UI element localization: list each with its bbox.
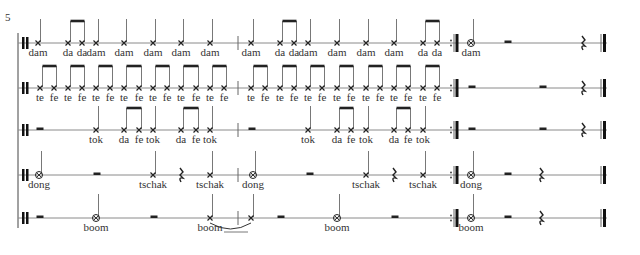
lyric-syllable: fe [433,91,442,103]
lyric-syllable: tok [301,133,316,145]
half-rest-icon [307,173,314,176]
lyric-syllable: fe [135,133,144,145]
half-rest-icon [94,173,101,176]
lyric-syllable: te [120,91,128,103]
lyric-syllable: tok [416,133,431,145]
lyric-syllable: te [64,91,72,103]
lyric-syllable: dam [299,46,318,58]
staff-te-fe-staff: tefetefetefetefetefetefetefetefetefetefe… [18,66,607,103]
staff-dong-tschak-staff: dongtschaktschakdongtschaktschakdong [18,151,607,190]
lyric-syllable: dam [201,46,220,58]
measure-number-label: 5 [5,11,11,23]
half-rest-icon [505,173,512,176]
lyric-syllable: da [332,133,343,145]
lyric-syllable: te [419,91,427,103]
lyric-syllable: fe [220,91,229,103]
lyric-syllable: dam [115,46,134,58]
lyric-syllable: tschak [196,178,225,190]
lyric-syllable: dam [29,46,48,58]
lyric-syllable: fe [376,91,385,103]
lyric-syllable: tschak [352,178,381,190]
lyric-syllable: fe [135,91,144,103]
lyric-syllable: fe [318,91,327,103]
lyric-syllable: te [177,91,185,103]
percussion-clef-icon [22,169,25,181]
lyric-syllable: dam [172,46,191,58]
lyric-syllable: te [304,91,312,103]
lyric-syllable: tschak [409,178,438,190]
repeat-dot-icon [450,172,452,174]
half-rest-icon [505,216,512,219]
staff-boom-staff: boomboomboomboom [18,194,607,233]
lyric-syllable: tok [359,133,374,145]
repeat-dot-icon [450,90,452,92]
lyric-syllable: boom [458,221,484,233]
half-rest-icon [37,128,44,131]
lyric-syllable: da [432,46,443,58]
lyric-syllable: da [63,46,74,58]
lyric-syllable: tok [89,133,104,145]
lyric-syllable: dam [144,46,163,58]
lyric-syllable: dong [242,178,265,190]
lyric-syllable: te [362,91,370,103]
score-canvas: 5damdadadamdamdamdamdamdamdadadamdamdamd… [0,0,640,255]
lyric-syllable: dam [242,46,261,58]
repeat-dot-icon [450,220,452,222]
lyric-syllable: dong [460,178,483,190]
repeat-dot-icon [450,40,452,42]
lyric-syllable: tok [146,133,161,145]
half-rest-icon [540,128,547,131]
staff-tok-staff: tokdafetokdafetoktokdafetokdafetok [18,106,607,145]
half-rest-icon [505,41,512,44]
lyric-syllable: te [276,91,284,103]
half-rest-icon [278,216,285,219]
staff-dam-staff: damdadadamdamdamdamdamdamdadadamdamdamda… [18,19,607,58]
repeat-dot-icon [450,85,452,87]
repeat-dot-icon [450,127,452,129]
lyric-syllable: te [206,91,214,103]
half-rest-icon [392,216,399,219]
half-rest-icon [540,86,547,89]
lyric-syllable: te [149,91,157,103]
lyric-syllable: dam [462,46,481,58]
half-rest-icon [249,128,256,131]
lyric-syllable: dam [87,46,106,58]
half-rest-icon [469,128,476,131]
half-rest-icon [469,86,476,89]
lyric-syllable: boom [83,221,109,233]
lyric-syllable: fe [106,91,115,103]
lyric-syllable: fe [78,91,87,103]
lyric-syllable: tok [203,133,218,145]
percussion-clef-icon [22,37,25,49]
lyric-syllable: fe [347,133,356,145]
lyric-syllable: dong [28,178,51,190]
percussion-clef-icon [22,124,25,136]
lyric-syllable: fe [261,91,270,103]
lyric-syllable: te [390,91,398,103]
lyric-syllable: te [92,91,100,103]
lyric-syllable: fe [192,133,201,145]
lyric-syllable: fe [347,91,356,103]
repeat-dot-icon [450,45,452,47]
lyric-syllable: da [389,133,400,145]
percussion-clef-icon [26,212,29,224]
percussion-clef-icon [26,124,29,136]
lyric-syllable: da [418,46,429,58]
half-rest-icon [37,216,44,219]
lyric-syllable: fe [163,91,172,103]
half-rest-icon [151,216,158,219]
lyric-syllable: fe [404,133,413,145]
lyric-syllable: fe [290,91,299,103]
repeat-dot-icon [450,215,452,217]
lyric-syllable: dam [385,46,404,58]
percussion-clef-icon [26,82,29,94]
repeat-dot-icon [450,132,452,134]
lyric-syllable: te [36,91,44,103]
lyric-syllable: te [247,91,255,103]
percussion-clef-icon [22,212,25,224]
lyric-syllable: da [275,46,286,58]
lyric-syllable: da [176,133,187,145]
lyric-syllable: da [119,133,130,145]
percussion-clef-icon [22,82,25,94]
lyric-syllable: dam [328,46,347,58]
